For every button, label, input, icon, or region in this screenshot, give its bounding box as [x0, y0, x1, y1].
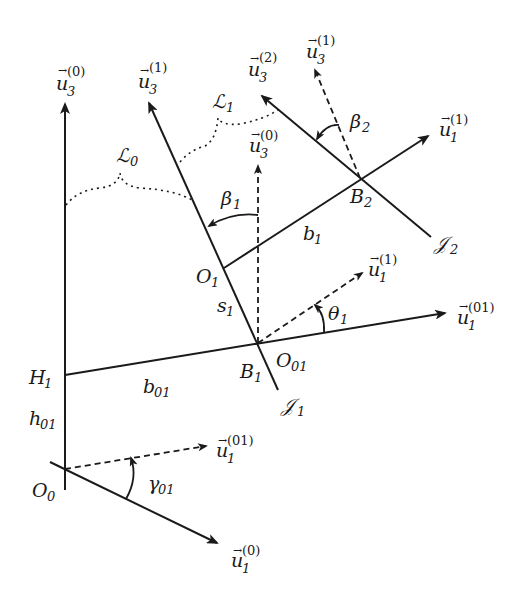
svg-text:1: 1: [44, 376, 52, 391]
label-beta2: β 2: [349, 110, 370, 135]
svg-text:2: 2: [449, 242, 458, 257]
svg-text:01: 01: [291, 359, 308, 374]
svg-text:ℒ: ℒ: [212, 90, 227, 112]
label-gamma01: γ 01: [148, 472, 175, 497]
label-u1-1-dashed: → u 1 (1): [368, 252, 397, 285]
label-u1-1-top: → u 1 (1): [439, 112, 468, 145]
svg-text:0: 0: [47, 489, 55, 504]
svg-text:O: O: [196, 265, 212, 287]
svg-text:1: 1: [379, 270, 387, 285]
label-u3-0-top: → u 3 (0): [56, 64, 85, 99]
label-o1: O 1: [196, 265, 219, 290]
svg-text:1: 1: [211, 275, 219, 290]
label-b1-length: b 1: [303, 222, 322, 247]
label-b2: B 2: [349, 185, 372, 210]
label-u3-1-dashed: → u 3 (1): [306, 33, 335, 67]
label-b01: b 01: [143, 375, 171, 400]
svg-text:3: 3: [260, 146, 268, 161]
svg-text:0: 0: [130, 154, 138, 169]
svg-text:2: 2: [363, 195, 372, 210]
svg-text:1: 1: [450, 130, 458, 145]
svg-text:(0): (0): [260, 128, 278, 143]
svg-text:3: 3: [317, 52, 325, 67]
svg-text:3: 3: [67, 84, 75, 99]
theta1-arc: [315, 305, 324, 332]
svg-text:(0): (0): [242, 543, 260, 558]
svg-text:1: 1: [297, 404, 305, 419]
u1-01-axis: [65, 313, 445, 375]
label-u1-01-dashed: → u 1 (01): [216, 433, 254, 466]
svg-text:(01): (01): [227, 433, 254, 448]
svg-text:(1): (1): [317, 33, 335, 48]
u1-1-dashed-vector: [258, 273, 362, 343]
beta1-arc: [209, 214, 258, 226]
label-b1: B 1: [239, 360, 262, 385]
svg-text:1: 1: [468, 318, 476, 333]
svg-text:(01): (01): [468, 300, 495, 315]
svg-text:3: 3: [259, 70, 267, 85]
svg-text:(1): (1): [450, 112, 468, 127]
svg-text:B: B: [349, 185, 364, 207]
beta2-arc: [317, 125, 339, 139]
label-j1: 𝒥 1: [280, 394, 305, 419]
svg-text:2: 2: [361, 120, 370, 135]
svg-text:1: 1: [242, 561, 250, 576]
label-u3-0-dashed: → u 3 (0): [249, 128, 278, 161]
svg-text:O: O: [32, 479, 48, 501]
u1-01-dashed-vector: [65, 446, 206, 469]
svg-text:1: 1: [314, 232, 322, 247]
kinematic-diagram: → u 3 (0) → u 3 (1) → u 3 (2) → u 3 (1) …: [0, 0, 524, 591]
label-l1: ℒ 1: [212, 90, 234, 115]
label-theta1: θ 1: [328, 302, 348, 327]
label-beta1: β 1: [220, 187, 241, 212]
svg-text:01: 01: [158, 482, 175, 497]
svg-text:1: 1: [340, 312, 348, 327]
svg-text:1: 1: [254, 370, 262, 385]
svg-text:01: 01: [154, 385, 171, 400]
svg-text:(1): (1): [379, 252, 397, 267]
label-h1: H 1: [28, 366, 52, 391]
label-l0: ℒ 0: [116, 144, 138, 169]
svg-text:01: 01: [40, 417, 57, 432]
svg-text:O: O: [276, 349, 292, 371]
svg-text:(0): (0): [67, 64, 85, 79]
label-u3-1-top: → u 3 (1): [138, 60, 167, 97]
link-l0-brace: [66, 173, 192, 205]
label-o0: O 0: [32, 479, 55, 504]
svg-text:1: 1: [226, 100, 234, 115]
svg-text:(1): (1): [149, 60, 167, 75]
svg-text:3: 3: [149, 82, 157, 97]
svg-text:θ: θ: [328, 302, 340, 324]
gamma01-arc: [126, 458, 134, 499]
svg-text:1: 1: [226, 304, 234, 319]
svg-text:β: β: [349, 110, 361, 132]
label-s1: s 1: [217, 294, 234, 319]
svg-text:1: 1: [227, 451, 235, 466]
label-u1-0: → u 1 (0): [231, 543, 260, 576]
svg-text:1: 1: [233, 197, 241, 212]
label-u3-2: → u 3 (2): [248, 50, 277, 85]
svg-text:ℒ: ℒ: [116, 144, 131, 166]
svg-text:(2): (2): [259, 50, 277, 65]
label-u1-01-solid: → u 1 (01): [457, 300, 495, 333]
label-h01: h 01: [29, 407, 57, 432]
svg-text:β: β: [220, 187, 232, 209]
j2-axis: [262, 96, 431, 237]
label-j2: 𝒥 2: [433, 232, 458, 257]
label-o01: O 01: [276, 349, 308, 374]
svg-text:B: B: [239, 360, 254, 382]
